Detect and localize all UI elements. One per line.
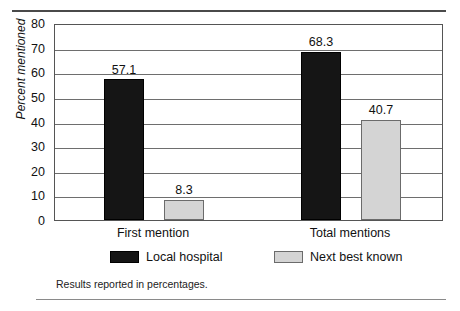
bar-value-local-hospital-total-mentions: 68.3 (291, 35, 351, 49)
bar-value-next-best-known-total-mentions: 40.7 (351, 103, 411, 117)
y-tick-label-40: 40 (31, 117, 45, 129)
legend-label-local-hospital: Local hospital (146, 250, 222, 264)
y-tick-label-50: 50 (31, 92, 45, 104)
x-axis-category-labels: First mention Total mentions (54, 226, 443, 244)
plot-area: 57.1 8.3 68.3 40.7 (54, 24, 443, 221)
bar-value-next-best-known-first-mention: 8.3 (154, 183, 214, 197)
bar-chart-figure: Percent mentioned 80 70 60 50 40 30 20 1… (0, 0, 460, 311)
chart-footnote: Results reported in percentages. (56, 278, 208, 290)
bar-local-hospital-total-mentions[interactable] (301, 52, 341, 220)
bar-local-hospital-first-mention[interactable] (104, 79, 144, 220)
legend-label-next-best-known: Next best known (310, 250, 402, 264)
y-tick-label-0: 0 (38, 215, 45, 227)
bar-next-best-known-first-mention[interactable] (164, 200, 204, 220)
y-axis-tick-labels: 80 70 60 50 40 30 20 10 0 (0, 24, 49, 221)
y-tick-label-10: 10 (31, 190, 45, 202)
x-category-label-first-mention: First mention (117, 226, 189, 240)
chart-legend: Local hospital Next best known (54, 250, 443, 270)
bottom-divider-rule (36, 299, 446, 300)
y-tick-label-30: 30 (31, 141, 45, 153)
legend-swatch-next-best-known (274, 251, 303, 263)
x-category-label-total-mentions: Total mentions (310, 226, 391, 240)
legend-item-next-best-known[interactable]: Next best known (274, 250, 402, 264)
bar-value-local-hospital-first-mention: 57.1 (94, 63, 154, 77)
plot-wrapper: Percent mentioned 80 70 60 50 40 30 20 1… (0, 0, 460, 311)
legend-item-local-hospital[interactable]: Local hospital (110, 250, 222, 264)
legend-swatch-local-hospital (110, 251, 139, 263)
bar-next-best-known-total-mentions[interactable] (361, 120, 401, 220)
gridline-70 (55, 50, 442, 51)
y-tick-label-80: 80 (31, 18, 45, 30)
y-tick-label-20: 20 (31, 166, 45, 178)
y-tick-label-60: 60 (31, 67, 45, 79)
y-tick-label-70: 70 (31, 43, 45, 55)
